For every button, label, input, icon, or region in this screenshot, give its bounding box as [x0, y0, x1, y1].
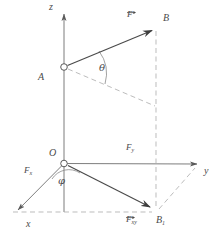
vector-label-force: F: [127, 10, 133, 19]
point-label-b1: B1: [156, 215, 165, 225]
vector-label-force-base: F: [127, 9, 133, 19]
force-xy-vector-arrow: [68, 166, 150, 208]
point-o-marker: [61, 160, 68, 167]
component-label-fx-subscript: x: [30, 170, 33, 176]
point-label-b1-subscript: 1: [162, 220, 165, 226]
component-label-fx-base: F: [24, 165, 30, 175]
vector-label-force-xy: F xy: [126, 215, 137, 224]
vector-label-force-xy-base: F: [126, 214, 132, 224]
vector-label-force-xy-subscript: xy: [132, 219, 137, 225]
point-a-marker: [61, 64, 68, 71]
component-label-fy: Fy: [126, 143, 134, 152]
component-label-fx: Fx: [24, 166, 32, 175]
point-label-a: A: [38, 72, 44, 82]
component-label-fy-base: F: [126, 142, 132, 152]
angle-label-theta: θ: [99, 63, 105, 73]
y-axis: [64, 164, 197, 165]
axis-label-x: x: [26, 219, 30, 229]
component-label-fy-subscript: y: [132, 147, 135, 153]
point-label-b: B: [163, 13, 169, 23]
axis-label-z: z: [49, 2, 53, 12]
axis-label-y: y: [204, 166, 208, 176]
force-vector-arrow: [68, 31, 153, 66]
dashed-helper-lines: [13, 31, 195, 212]
figure-canvas: z y x A O B B1 F F xy Fx Fy θ φ: [0, 0, 219, 237]
angle-label-phi: φ: [58, 176, 65, 186]
diagram-svg: [0, 0, 219, 237]
point-label-o: O: [49, 148, 56, 158]
